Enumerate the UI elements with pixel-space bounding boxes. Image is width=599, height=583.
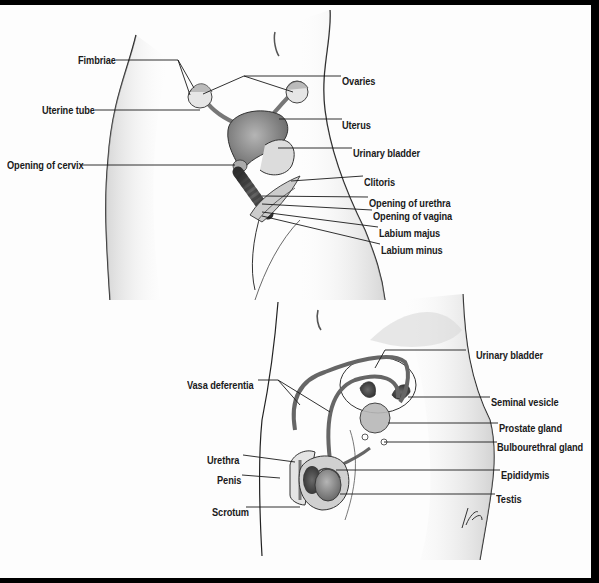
illustration-canvas: Fimbriae Uterine tube Opening of cervix … [0, 5, 591, 578]
label-fimbriae: Fimbriae [78, 54, 116, 66]
label-urinary-bladder-male: Urinary bladder [476, 349, 543, 361]
label-labium-minus: Labium minus [381, 244, 443, 256]
label-uterus: Uterus [342, 119, 371, 131]
label-opening-of-urethra: Opening of urethra [369, 197, 451, 209]
label-labium-majus: Labium majus [379, 227, 440, 239]
label-clitoris: Clitoris [364, 176, 395, 188]
male-figure [260, 294, 494, 560]
label-opening-of-vagina: Opening of vagina [373, 210, 452, 222]
label-testis: Testis [496, 493, 521, 505]
label-urinary-bladder-female: Urinary bladder [353, 147, 420, 159]
label-prostate-gland: Prostate gland [499, 422, 562, 434]
label-opening-of-cervix: Opening of cervix [7, 159, 84, 171]
female-figure [106, 10, 385, 300]
label-penis: Penis [217, 474, 241, 486]
label-scrotum: Scrotum [212, 506, 249, 518]
label-seminal-vesicle: Seminal vesicle [491, 396, 559, 408]
label-ovaries: Ovaries [342, 75, 375, 87]
label-epididymis: Epididymis [501, 469, 549, 481]
label-bulbourethral-gland: Bulbourethral gland [497, 441, 583, 453]
label-vasa-deferentia: Vasa deferentia [187, 379, 253, 391]
label-uterine-tube: Uterine tube [42, 104, 95, 116]
label-urethra: Urethra [207, 454, 239, 466]
